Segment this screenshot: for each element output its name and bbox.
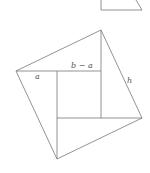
label-a: a <box>35 72 40 81</box>
label-b-minus-a: b − a <box>71 61 93 70</box>
label-h: h <box>127 76 132 85</box>
pythagorean-diagram: a b − a h <box>0 0 150 173</box>
outer-square <box>16 30 142 159</box>
partial-figure-top <box>101 0 142 10</box>
